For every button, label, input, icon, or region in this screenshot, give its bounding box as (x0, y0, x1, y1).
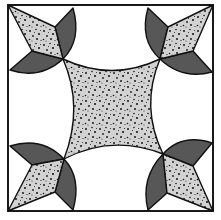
quilt-block-diagram (0, 0, 221, 220)
center-speckled-shape (63, 59, 163, 159)
